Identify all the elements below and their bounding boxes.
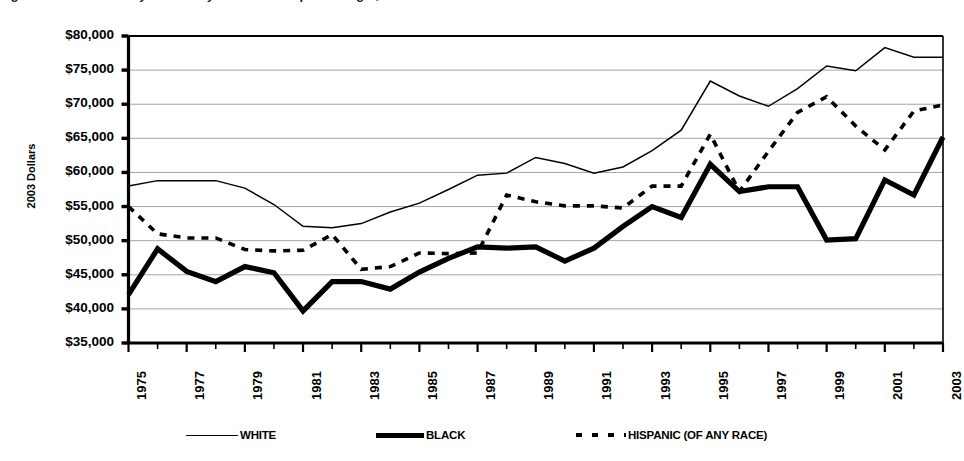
axis-ticks — [122, 36, 944, 352]
data-series — [129, 48, 944, 311]
swatch-bar — [576, 433, 626, 437]
series-line-hispanic — [129, 97, 944, 270]
axis-lines — [129, 36, 944, 343]
legend-label: WHITE — [240, 429, 276, 441]
chart-legend: WHITEBLACKHISPANIC (OF ANY RACE) — [0, 424, 955, 454]
series-line-black — [129, 137, 944, 311]
swatch-bar — [186, 435, 238, 436]
swatch-bar — [376, 433, 424, 438]
legend-label: HISPANIC (OF ANY RACE) — [628, 429, 767, 441]
line-dashed-icon — [574, 428, 626, 442]
legend-entry-white[interactable]: WHITE — [186, 424, 276, 446]
line-thin-icon — [186, 428, 238, 442]
legend-entry-black[interactable]: BLACK — [372, 424, 465, 446]
line-thick-icon — [372, 428, 424, 442]
legend-entry-hispanic[interactable]: HISPANIC (OF ANY RACE) — [574, 424, 767, 446]
legend-label: BLACK — [426, 429, 465, 441]
gridlines — [129, 70, 944, 343]
